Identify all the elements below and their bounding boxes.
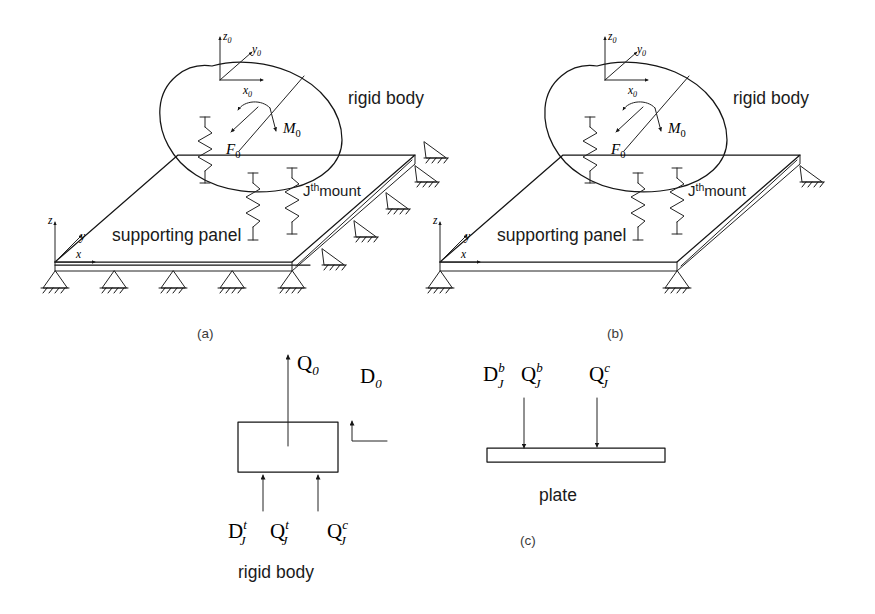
local-axis-y-label-b: y0 xyxy=(636,43,646,58)
mount-spring-a-2 xyxy=(246,173,260,240)
local-axis-y-label-a: y0 xyxy=(251,43,261,58)
caption-c: (c) xyxy=(520,533,536,548)
panel-b: z y x xyxy=(424,30,824,341)
force-label-b: F0 xyxy=(610,141,625,160)
global-axis-x-label-b: x xyxy=(460,248,467,260)
local-axis-z-label-b: z0 xyxy=(607,30,616,45)
edge-supports-front-a xyxy=(41,271,306,293)
force-moment-b: F0 M0 xyxy=(610,76,689,160)
supporting-panel-label-b: supporting panel xyxy=(497,225,626,245)
moment-label-a: M0 xyxy=(282,120,301,139)
body-bottom-label-0: DtJ xyxy=(228,517,247,548)
local-axes-a: z0 y0 x0 xyxy=(220,30,263,99)
global-axes-b: z y x xyxy=(432,214,480,262)
global-axis-z-label-b: z xyxy=(432,214,438,226)
figure-root: z y x xyxy=(0,0,875,614)
panel-c: Q0 D0 DtJ QtJ QcJ rigid body xyxy=(228,351,665,582)
edge-supports-front-b xyxy=(426,271,691,293)
plate-block-c xyxy=(487,398,665,462)
body-bottom-labels-c: DtJ QtJ QcJ xyxy=(228,517,348,548)
body-bottom-label-1: QtJ xyxy=(270,517,289,548)
rigid-body-label-b: rigid body xyxy=(733,88,809,108)
body-force-top-label-c: Q0 xyxy=(297,351,319,378)
global-axis-x-label-a: x xyxy=(75,248,82,260)
global-axis-y-label-b: y xyxy=(464,230,471,243)
moment-label-b: M0 xyxy=(667,120,686,139)
plate-top-label-2: QcJ xyxy=(589,360,610,391)
global-axis-y-label-a: y xyxy=(79,230,86,243)
body-bottom-label-2: QcJ xyxy=(327,517,348,548)
global-axis-z-label-a: z xyxy=(47,214,53,226)
caption-a: (a) xyxy=(197,326,214,341)
rigid-body-label-a: rigid body xyxy=(348,88,424,108)
supporting-panel-label-a: supporting panel xyxy=(112,225,241,245)
figure-svg: z y x xyxy=(0,0,875,614)
force-label-a: F0 xyxy=(225,141,240,160)
rigid-body-label-c: rigid body xyxy=(238,562,314,582)
mount-spring-b-3 xyxy=(670,168,684,234)
plate-top-labels-c: DbJ QbJ QcJ xyxy=(483,360,610,391)
local-axis-z-label-a: z0 xyxy=(222,30,231,45)
supporting-panel-a xyxy=(55,155,415,271)
panel-a: z y x xyxy=(41,30,439,341)
body-disp-top-label-c: D0 xyxy=(360,364,382,391)
mount-label-a: Jthmount xyxy=(303,181,362,199)
global-axes-a: z y x xyxy=(47,214,95,262)
force-moment-a: F0 M0 xyxy=(225,76,304,160)
caption-b: (b) xyxy=(607,326,624,341)
rigid-body-b xyxy=(545,62,727,192)
local-axis-x-label-a: x0 xyxy=(242,84,252,99)
local-axes-b: z0 y0 x0 xyxy=(605,30,648,99)
plate-top-label-0: DbJ xyxy=(483,360,505,391)
local-axis-x-label-b: x0 xyxy=(627,84,637,99)
mount-spring-a-3 xyxy=(285,168,299,234)
mount-label-b: Jthmount xyxy=(688,181,747,199)
rigid-body-a xyxy=(160,62,342,192)
mount-spring-a-1 xyxy=(198,117,212,183)
plate-top-label-1: QbJ xyxy=(521,360,543,391)
plate-label-c: plate xyxy=(539,485,577,505)
mount-spring-b-2 xyxy=(631,173,645,240)
mount-spring-b-1 xyxy=(583,117,597,183)
supporting-panel-b xyxy=(440,155,800,271)
